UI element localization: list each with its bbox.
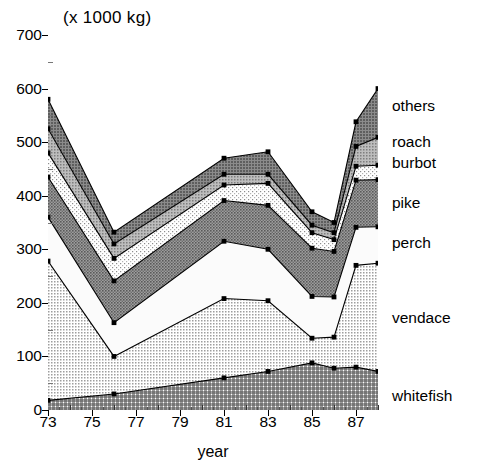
y-axis-tick-label: 600 — [2, 81, 42, 97]
x-axis-minor-tick — [367, 407, 368, 410]
y-axis-minor-tick — [48, 330, 53, 331]
data-point-marker — [48, 259, 50, 264]
data-point-marker — [112, 256, 117, 261]
x-axis-minor-tick — [70, 405, 71, 410]
data-point-marker — [222, 296, 227, 301]
data-point-marker — [332, 237, 337, 242]
x-axis-tick-label: 85 — [303, 414, 320, 430]
x-axis-minor-tick — [378, 405, 379, 410]
x-axis-minor-tick — [345, 407, 346, 410]
area-chart-svg — [48, 35, 378, 410]
y-axis-tick — [42, 356, 48, 357]
y-axis-tick-label: 300 — [2, 242, 42, 258]
data-point-marker — [222, 375, 227, 380]
y-axis-minor-tick — [48, 383, 53, 384]
y-axis-tick — [42, 303, 48, 304]
x-axis-tick-label: 83 — [259, 414, 276, 430]
data-point-marker — [376, 261, 378, 266]
data-point-marker — [266, 203, 271, 208]
data-point-marker — [48, 150, 50, 155]
x-axis-minor-tick — [290, 405, 291, 410]
x-axis-minor-tick — [246, 405, 247, 410]
x-axis-minor-tick — [301, 407, 302, 410]
data-point-marker — [354, 225, 359, 230]
data-point-marker — [354, 365, 359, 370]
x-axis-minor-tick — [114, 405, 115, 410]
data-point-marker — [222, 156, 227, 161]
data-point-marker — [266, 181, 271, 186]
x-axis-minor-tick — [191, 407, 192, 410]
data-point-marker — [112, 354, 117, 359]
data-point-marker — [266, 298, 271, 303]
y-axis-tick-label: 700 — [2, 27, 42, 43]
legend-label-perch: perch — [392, 235, 431, 251]
y-axis-tick-label: 0 — [2, 402, 42, 418]
x-axis-minor-tick — [125, 407, 126, 410]
chart-figure: (x 1000 kg) 0100200300400500600700 — [0, 0, 477, 476]
y-axis-tick — [42, 142, 48, 143]
data-point-marker — [48, 215, 50, 220]
data-point-marker — [376, 86, 378, 91]
y-axis-minor-tick — [48, 276, 53, 277]
data-point-marker — [266, 247, 271, 252]
y-axis-minor-tick — [48, 62, 53, 63]
data-point-marker — [310, 223, 315, 228]
data-point-marker — [310, 230, 315, 235]
x-axis-minor-tick — [103, 407, 104, 410]
y-axis-tick-label: 200 — [2, 295, 42, 311]
y-axis-tick-label: 100 — [2, 349, 42, 365]
data-point-marker — [48, 126, 50, 131]
x-axis-minor-tick — [158, 405, 159, 410]
data-point-marker — [354, 144, 359, 149]
data-point-marker — [332, 366, 337, 371]
data-point-marker — [310, 209, 315, 214]
data-point-marker — [376, 163, 378, 168]
data-point-marker — [112, 278, 117, 283]
x-axis-minor-tick — [147, 407, 148, 410]
x-axis-minor-tick — [59, 407, 60, 410]
data-point-marker — [376, 369, 378, 374]
x-axis-tick-label: 81 — [215, 414, 232, 430]
chart-title: (x 1000 kg) — [63, 8, 151, 28]
legend-label-pike: pike — [392, 195, 420, 211]
plot-area — [48, 35, 378, 410]
x-axis-minor-tick — [202, 405, 203, 410]
x-axis-tick-label: 75 — [83, 414, 100, 430]
x-axis-minor-tick — [169, 407, 170, 410]
data-point-marker — [376, 177, 378, 182]
data-point-marker — [332, 230, 337, 235]
legend-label-others: others — [392, 98, 435, 114]
x-axis-tick-label: 79 — [171, 414, 188, 430]
y-axis-tick-label: 400 — [2, 188, 42, 204]
y-axis-minor-tick — [48, 115, 53, 116]
x-axis-minor-tick — [213, 407, 214, 410]
data-point-marker — [376, 224, 378, 229]
x-axis-tick-label: 73 — [39, 414, 56, 430]
y-axis-minor-tick — [48, 169, 53, 170]
data-point-marker — [222, 198, 227, 203]
legend-label-vendace: vendace — [392, 310, 451, 326]
data-point-marker — [112, 320, 117, 325]
data-point-marker — [310, 294, 315, 299]
x-axis-tick-label: 87 — [347, 414, 364, 430]
y-axis-tick — [42, 249, 48, 250]
x-axis-minor-tick — [279, 407, 280, 410]
y-axis-labels: 0100200300400500600700 — [0, 0, 42, 476]
x-axis-minor-tick — [323, 407, 324, 410]
data-point-marker — [332, 335, 337, 340]
data-point-marker — [266, 172, 271, 177]
legend-label-burbot: burbot — [392, 155, 436, 171]
x-axis-minor-tick — [81, 407, 82, 410]
x-axis-tick-label: 77 — [127, 414, 144, 430]
data-point-marker — [310, 360, 315, 365]
data-point-marker — [354, 263, 359, 268]
data-point-marker — [112, 230, 117, 235]
x-axis-minor-tick — [257, 407, 258, 410]
data-point-marker — [112, 392, 117, 397]
legend-label-roach: roach — [392, 134, 431, 150]
data-point-marker — [332, 295, 337, 300]
y-axis-tick-label: 500 — [2, 134, 42, 150]
x-axis-minor-tick — [235, 407, 236, 410]
data-point-marker — [310, 246, 315, 251]
data-point-marker — [266, 369, 271, 374]
